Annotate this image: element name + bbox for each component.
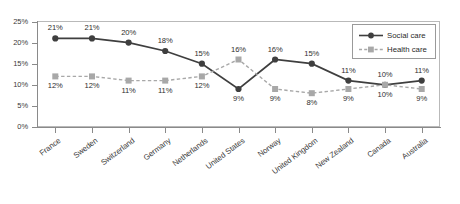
data-label-social-care-5: 9% xyxy=(233,94,244,103)
data-label-social-care-8: 11% xyxy=(341,66,355,75)
data-point-social-care-0[interactable] xyxy=(52,35,58,41)
data-label-social-care-3: 18% xyxy=(158,36,173,45)
chart-legend: Social care Health care xyxy=(352,24,436,59)
data-point-health-care-7[interactable] xyxy=(309,90,315,96)
data-point-social-care-3[interactable] xyxy=(162,48,168,54)
legend-label-health-care: Health care xyxy=(387,45,427,54)
data-point-health-care-10[interactable] xyxy=(419,86,425,92)
legend-swatch-health-care xyxy=(358,44,384,55)
data-point-social-care-4[interactable] xyxy=(199,61,205,67)
data-point-social-care-10[interactable] xyxy=(419,78,425,84)
data-point-social-care-2[interactable] xyxy=(126,40,132,46)
data-label-health-care-1: 12% xyxy=(85,81,100,90)
legend-swatch-social-care xyxy=(358,30,384,41)
data-label-social-care-6: 16% xyxy=(268,45,283,54)
data-label-health-care-8: 9% xyxy=(343,94,354,103)
data-point-social-care-8[interactable] xyxy=(345,78,351,84)
data-point-health-care-4[interactable] xyxy=(199,73,205,79)
data-label-social-care-2: 20% xyxy=(121,28,136,37)
legend-item-social-care[interactable]: Social care xyxy=(358,29,426,41)
data-point-social-care-5[interactable] xyxy=(235,86,241,92)
data-label-health-care-10: 9% xyxy=(416,94,427,103)
data-label-health-care-9: 10% xyxy=(378,90,393,99)
line-chart: 0%5%10%15%20%25% FranceSwedenSwitzerland… xyxy=(0,0,460,204)
data-label-health-care-0: 12% xyxy=(48,81,63,90)
data-point-health-care-9[interactable] xyxy=(382,82,388,88)
data-label-health-care-7: 8% xyxy=(306,98,317,107)
data-label-social-care-0: 21% xyxy=(48,23,63,32)
data-point-health-care-3[interactable] xyxy=(162,78,168,84)
data-label-social-care-9: 10% xyxy=(378,70,393,79)
data-label-health-care-3: 11% xyxy=(158,86,172,95)
data-point-health-care-5[interactable] xyxy=(236,57,242,63)
data-label-social-care-10: 11% xyxy=(415,66,429,75)
data-point-health-care-2[interactable] xyxy=(126,78,132,84)
data-point-health-care-1[interactable] xyxy=(89,73,95,79)
legend-item-health-care[interactable]: Health care xyxy=(358,43,427,55)
data-label-social-care-4: 15% xyxy=(194,49,209,58)
data-label-health-care-5: 16% xyxy=(231,45,246,54)
data-label-health-care-4: 12% xyxy=(194,81,209,90)
data-point-social-care-6[interactable] xyxy=(272,56,278,62)
data-label-health-care-2: 11% xyxy=(121,86,135,95)
legend-label-social-care: Social care xyxy=(387,31,426,40)
data-label-social-care-7: 15% xyxy=(304,49,319,58)
data-point-health-care-8[interactable] xyxy=(345,86,351,92)
data-label-social-care-1: 21% xyxy=(85,23,100,32)
data-label-health-care-6: 9% xyxy=(270,94,281,103)
data-point-health-care-6[interactable] xyxy=(272,86,278,92)
data-point-health-care-0[interactable] xyxy=(52,73,58,79)
data-point-social-care-7[interactable] xyxy=(309,61,315,67)
data-point-social-care-1[interactable] xyxy=(89,35,95,41)
